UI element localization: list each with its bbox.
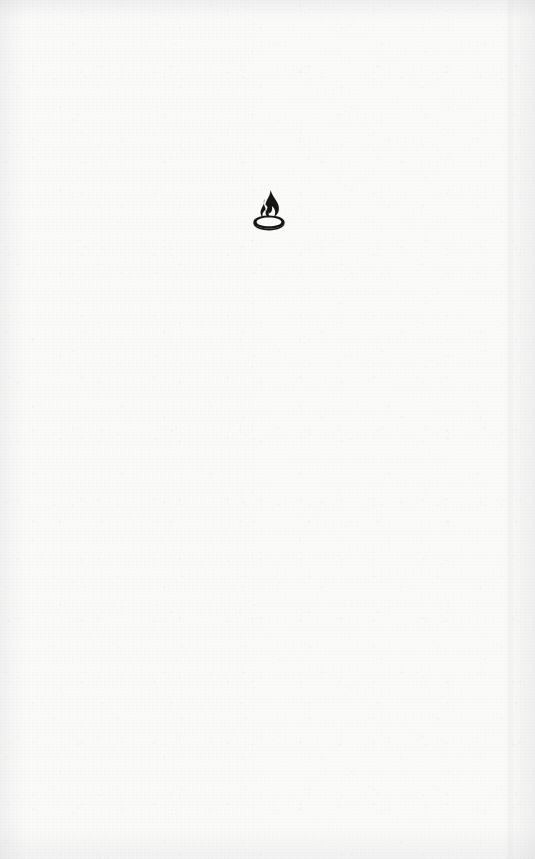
scanned-page xyxy=(0,0,535,859)
flame-icon xyxy=(261,190,279,218)
scan-edge-shadow-top xyxy=(0,0,535,20)
scan-edge-shadow-bottom xyxy=(0,825,535,859)
scan-edge-band-right xyxy=(505,0,515,859)
scan-edge-shadow-right xyxy=(505,0,535,859)
scan-edge-shadow-left xyxy=(0,0,26,859)
brazier-bowl-icon xyxy=(253,215,284,230)
flame-brazier-emblem xyxy=(250,188,288,234)
